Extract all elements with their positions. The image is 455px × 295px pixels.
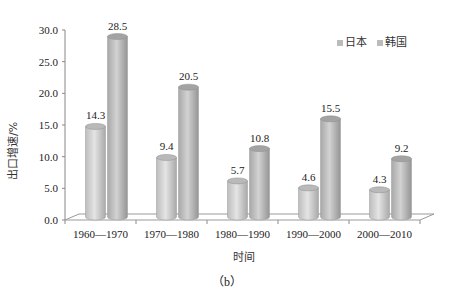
data-label: 5.7 <box>231 164 245 176</box>
bar-korea: 10.8 <box>250 132 270 220</box>
legend: 日本 韩国 <box>337 33 407 49</box>
data-label: 10.8 <box>250 132 270 144</box>
legend-item-japan: 日本 <box>337 33 367 49</box>
data-label: 9.2 <box>395 142 409 154</box>
y-axis-label: 出口增速/% <box>4 166 20 180</box>
y-tick-label: 0.0 <box>44 214 58 226</box>
bar-japan: 9.4 <box>157 140 177 220</box>
x-tick-label: 1990—2000 <box>286 228 342 240</box>
x-tick-label: 1970—1980 <box>144 228 200 240</box>
data-label: 28.5 <box>108 20 128 32</box>
y-tick-label: 15.0 <box>39 119 59 131</box>
bar-korea: 15.5 <box>321 102 341 220</box>
caption-text: b <box>224 275 230 289</box>
legend-swatch-icon <box>337 40 343 46</box>
data-label: 9.4 <box>160 140 174 152</box>
y-tick-label: 25.0 <box>39 56 59 68</box>
legend-swatch-icon <box>377 40 383 46</box>
data-label: 20.5 <box>179 70 199 82</box>
bar-japan: 5.7 <box>228 164 248 220</box>
y-tick-label: 20.0 <box>39 87 59 99</box>
legend-label: 日本 <box>345 36 367 49</box>
y-tick-label: 30.0 <box>39 24 59 36</box>
bar-japan: 4.3 <box>370 173 390 220</box>
x-tick-label: 2000—2010 <box>357 228 413 240</box>
bar-korea: 9.2 <box>392 142 412 220</box>
x-axis-label: 时间 <box>233 248 255 264</box>
y-tick-label: 5.0 <box>44 182 58 194</box>
legend-label: 韩国 <box>385 36 407 49</box>
data-label: 14.3 <box>86 109 106 121</box>
bars: 14.328.59.420.55.710.84.615.54.39.2 <box>86 20 412 221</box>
bar-korea: 20.5 <box>179 70 199 220</box>
bar-korea: 28.5 <box>108 20 128 221</box>
y-tick-label: 10.0 <box>39 151 59 163</box>
bar-japan: 14.3 <box>86 109 106 220</box>
data-label: 4.3 <box>373 173 387 185</box>
x-tick-label: 1980—1990 <box>215 228 271 240</box>
x-tick-label: 1960—1970 <box>73 228 129 240</box>
bar-japan: 4.6 <box>299 171 319 220</box>
figure-caption: （b） <box>212 272 242 290</box>
legend-item-korea: 韩国 <box>377 33 407 49</box>
data-label: 4.6 <box>302 171 316 183</box>
data-label: 15.5 <box>321 102 341 114</box>
